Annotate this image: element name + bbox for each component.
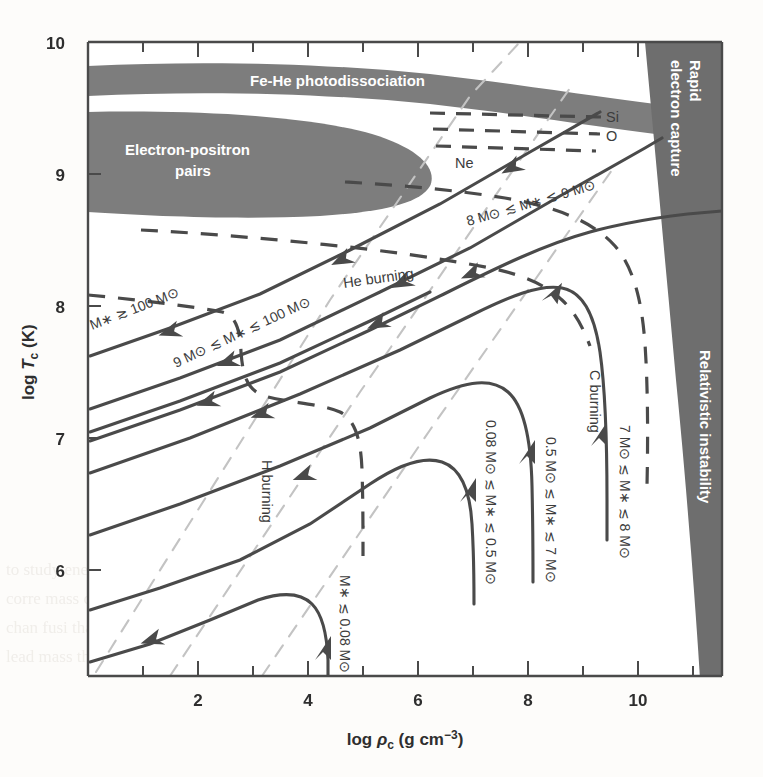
x-tick-8: 8 [523,691,532,710]
region-label-rapid-electron-capture-line1: Rapid [687,60,704,102]
y-tick-7: 7 [56,430,65,449]
x-tick-4: 4 [303,691,313,710]
y-tick-10: 10 [46,34,65,53]
region-label-rapid-electron-capture-line2: electron capture [668,60,685,177]
y-tick-labels: 10 9 8 7 6 [46,34,65,581]
core-temperature-density-diagram: to study energies corre mass cor chan fu… [0,0,763,777]
label-track-7-to-8: 7 M⊙ ≲ M∗ ≲ 8 M⊙ [617,425,633,559]
plot-area: Fe-He photodissociation Electron-positro… [87,42,722,676]
label-track-0p08-to-0p5: 0.08 M⊙ ≲ M∗ ≲ 0.5 M⊙ [483,420,499,585]
x-axis-title-exp: −3 [444,728,458,742]
svg-text:chan fusi that: chan fusi that [6,618,98,637]
y-tick-6: 6 [56,562,65,581]
label-o-burning: O [606,128,617,144]
y-tick-8: 8 [56,298,65,317]
label-c-burning: C burning [587,370,603,433]
x-tick-10: 10 [629,691,648,710]
region-label-fe-he-photodissociation: Fe-He photodissociation [250,72,425,89]
x-axis-title-symbol: ρ [376,730,387,749]
y-axis-title: log Tc (K) [19,324,41,400]
x-tick-2: 2 [193,691,202,710]
label-track-below-0p08: M∗ ≲ 0.08 M⊙ [337,575,353,673]
region-label-relativistic-instability: Relativistic instability [697,350,714,504]
region-label-electron-positron-line2: pairs [175,162,211,179]
y-tick-9: 9 [56,166,65,185]
y-axis-title-units: (K) [19,324,38,352]
x-axis-title-close: ) [458,730,464,749]
x-tick-labels: 2 4 6 8 10 [193,691,647,710]
svg-text:log Tc (K): log Tc (K) [19,324,41,400]
svg-text:lead mass the: lead mass the [6,647,98,666]
label-track-0p5-to-7: 0.5 M⊙ ≲ M∗ ≲ 7 M⊙ [543,437,559,583]
y-axis-title-log: log [19,370,38,400]
x-axis-title-log: log [347,730,377,749]
x-axis-title: log ρc (g cm−3) [347,728,464,752]
label-ne-burning: Ne [455,155,474,171]
x-tick-6: 6 [413,691,422,710]
svg-text:log ρc (g cm−3): log ρc (g cm−3) [347,728,464,752]
label-si-burning: Si [606,109,619,125]
x-axis-title-units: (g cm [394,730,444,749]
label-h-burning: H burning [259,460,275,523]
figure-container: to study energies corre mass cor chan fu… [0,0,763,777]
region-label-electron-positron-line1: Electron-positron [125,141,250,158]
